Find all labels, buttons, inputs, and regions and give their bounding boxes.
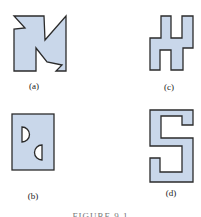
label-c: (c) bbox=[164, 82, 174, 92]
label-d: (d) bbox=[166, 188, 177, 198]
label-a: (a) bbox=[29, 81, 39, 91]
shape-b bbox=[12, 114, 54, 170]
label-b: (b) bbox=[28, 191, 39, 201]
shape-c bbox=[150, 16, 193, 70]
shape-d bbox=[150, 110, 193, 182]
figure-caption: FIGURE 9.1 bbox=[72, 211, 128, 217]
figure-canvas bbox=[0, 0, 201, 217]
shape-a bbox=[14, 16, 66, 71]
